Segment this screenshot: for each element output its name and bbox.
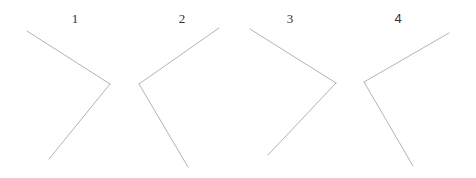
figure-label-2: 2 <box>179 11 186 26</box>
figure-1-upper-ray <box>27 31 110 84</box>
figure-1: 1 <box>27 11 110 159</box>
figure-4-upper-ray <box>364 33 449 82</box>
figure-label-3: 3 <box>287 11 294 26</box>
figure-label-1: 1 <box>72 11 79 26</box>
figure-3-upper-ray <box>250 29 336 83</box>
figure-4-lower-ray <box>364 82 413 166</box>
figure-1-lower-ray <box>49 84 110 159</box>
figure-3-lower-ray <box>268 83 336 155</box>
figure-label-4: 4 <box>394 11 401 26</box>
figure-2-lower-ray <box>139 84 188 167</box>
figure-2: 2 <box>139 11 219 167</box>
figure-2-upper-ray <box>139 28 219 84</box>
figure-3: 3 <box>250 11 336 155</box>
angles-diagram: 1 2 3 4 <box>0 0 476 178</box>
figure-4: 4 <box>364 11 449 166</box>
